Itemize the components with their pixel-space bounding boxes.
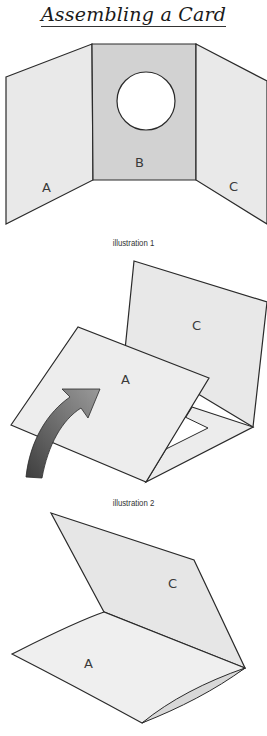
- illustration-1: A B C: [6, 44, 267, 224]
- label-a-2: A: [121, 372, 130, 387]
- label-c-2: C: [192, 318, 201, 333]
- window-cutout: [117, 72, 175, 130]
- illustration-2: C A: [11, 261, 267, 482]
- label-a-1: A: [42, 180, 51, 195]
- label-b-1: B: [135, 155, 144, 170]
- caption-illustration-1: illustration 1: [24, 237, 243, 248]
- panel-c-1: [196, 44, 267, 224]
- card-diagram: A B C C A C A: [0, 0, 267, 736]
- label-c-1: C: [229, 179, 238, 194]
- panel-a-1: [6, 44, 93, 224]
- label-c-3: C: [168, 576, 177, 591]
- caption-illustration-2: illustration 2: [24, 497, 243, 508]
- illustration-3: C A: [12, 513, 245, 723]
- label-a-3: A: [84, 656, 93, 671]
